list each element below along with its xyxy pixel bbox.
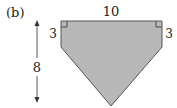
pentagon-shape [61, 21, 162, 106]
height-label: 8 [33, 60, 41, 75]
figure-label: (b) [6, 5, 24, 20]
right-side-label: 3 [165, 27, 173, 41]
pentagon-diagram: (b) 10 3 3 8 [0, 0, 177, 108]
left-side-label: 3 [49, 27, 57, 41]
top-length-label: 10 [103, 4, 120, 19]
